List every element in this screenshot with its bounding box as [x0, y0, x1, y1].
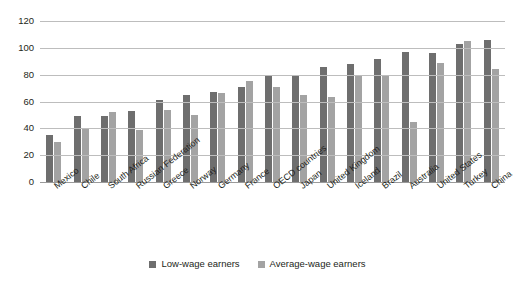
x-tick-label: Chile — [79, 183, 85, 191]
gridline — [40, 75, 505, 76]
bar-chart: 020406080100120 MexicoChileSouth AfricaR… — [0, 0, 515, 289]
bar-low-wage — [101, 116, 108, 182]
x-tick-label: United Kingdom — [325, 183, 331, 191]
x-tick-label: Brazil — [380, 183, 386, 191]
gridline — [40, 128, 505, 129]
x-tick-label: Germany — [216, 183, 222, 191]
bar-average-wage — [218, 93, 225, 182]
y-axis: 020406080100120 — [0, 0, 40, 200]
legend-swatch-icon — [149, 261, 156, 268]
gridline — [40, 21, 505, 22]
gridline — [40, 155, 505, 156]
x-tick-label: Turkey — [462, 183, 468, 191]
plot-area — [40, 21, 505, 182]
gridline — [40, 102, 505, 103]
legend-swatch-icon — [258, 261, 265, 268]
x-tick-label: South Africa — [106, 183, 112, 191]
x-tick-label: Greece — [161, 183, 167, 191]
y-tick-label: 80 — [23, 70, 34, 80]
bar-average-wage — [328, 97, 335, 182]
bar-low-wage — [46, 135, 53, 182]
y-tick-label: 120 — [18, 16, 34, 26]
bar-average-wage — [437, 63, 444, 182]
x-tick-label: Russian Federation — [134, 183, 140, 191]
y-tick-label: 60 — [23, 97, 34, 107]
legend-item[interactable]: Low-wage earners — [149, 259, 239, 269]
legend-item[interactable]: Average-wage earners — [258, 259, 366, 269]
x-tick-label: United States — [435, 183, 441, 191]
x-tick-label: France — [243, 183, 249, 191]
y-tick-label: 100 — [18, 43, 34, 53]
y-tick-label: 0 — [29, 177, 34, 187]
x-tick-label: Iceland — [353, 183, 359, 191]
x-tick-label: China — [489, 183, 495, 191]
bar-low-wage — [320, 67, 327, 182]
bar-average-wage — [410, 122, 417, 182]
x-tick-label: Australia — [407, 183, 413, 191]
bar-low-wage — [484, 40, 491, 182]
legend-label: Low-wage earners — [161, 259, 239, 269]
bar-average-wage — [109, 112, 116, 182]
x-tick-label: Norway — [188, 183, 194, 191]
x-tick-label: OECD countries — [271, 183, 277, 191]
chart-legend: Low-wage earnersAverage-wage earners — [0, 259, 515, 269]
bar-low-wage — [374, 59, 381, 182]
y-tick-label: 40 — [23, 123, 34, 133]
x-tick-label: Mexico — [52, 183, 58, 191]
bar-low-wage — [402, 52, 409, 182]
x-tick-label: Japan — [298, 183, 304, 191]
gridline — [40, 48, 505, 49]
legend-label: Average-wage earners — [270, 259, 366, 269]
x-axis-labels: MexicoChileSouth AfricaRussian Federatio… — [40, 183, 505, 253]
y-tick-label: 20 — [23, 150, 34, 160]
bar-average-wage — [492, 69, 499, 182]
